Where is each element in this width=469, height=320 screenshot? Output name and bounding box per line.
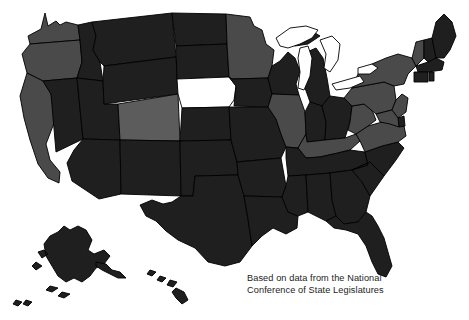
state-AK[interactable] <box>13 226 110 306</box>
state-ME[interactable] <box>432 14 456 58</box>
us-map-svg <box>0 0 469 320</box>
state-OH[interactable] <box>322 96 352 140</box>
state-AR[interactable] <box>237 158 286 197</box>
state-CT[interactable] <box>414 72 428 82</box>
us-choropleth-map-figure: Based on data from the National Conferen… <box>0 0 469 320</box>
state-NM[interactable] <box>120 140 181 196</box>
lake-superior <box>276 26 318 48</box>
state-WA[interactable] <box>28 13 80 44</box>
state-VT[interactable] <box>412 40 424 66</box>
map-source-caption: Based on data from the National Conferen… <box>247 273 417 296</box>
inset-alaska[interactable] <box>13 226 126 306</box>
state-FL[interactable] <box>326 212 392 277</box>
state-NE[interactable] <box>177 77 236 108</box>
alaska-aleutians <box>96 262 126 278</box>
state-ND[interactable] <box>172 13 227 46</box>
state-KS[interactable] <box>180 107 231 141</box>
state-RI[interactable] <box>429 72 434 81</box>
state-HI[interactable] <box>147 270 188 304</box>
state-SD[interactable] <box>176 44 229 79</box>
state-IA[interactable] <box>229 77 272 107</box>
state-MT[interactable] <box>92 13 176 66</box>
state-AZ[interactable] <box>67 139 121 199</box>
inset-hawaii[interactable] <box>147 270 188 304</box>
state-MN[interactable] <box>226 14 274 79</box>
